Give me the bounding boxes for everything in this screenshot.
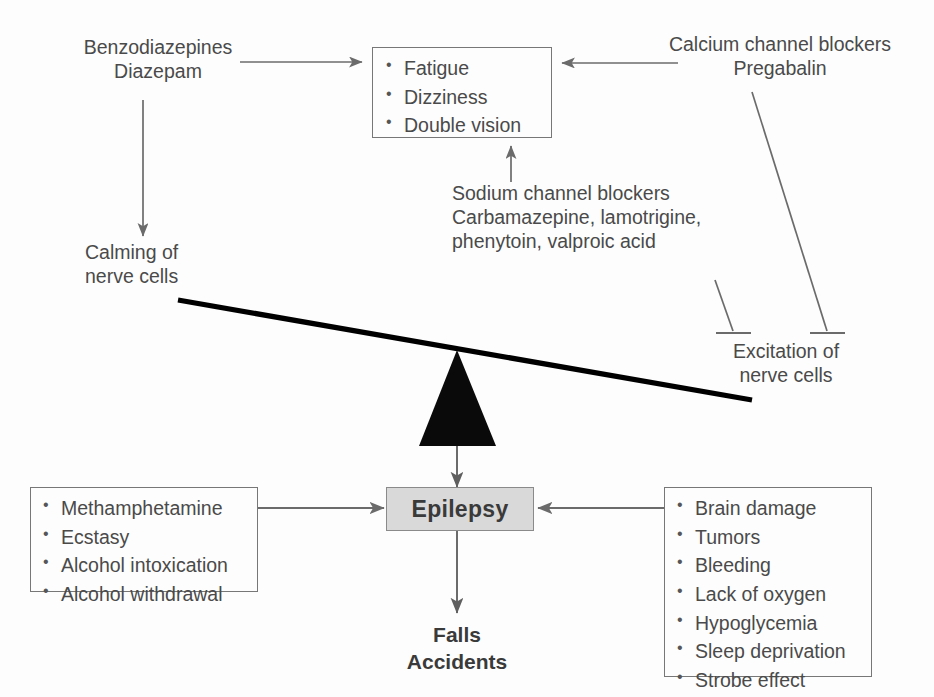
epilepsy-label: Epilepsy xyxy=(412,496,509,523)
list-item: Lack of oxygen xyxy=(675,580,846,609)
list-item: Alcohol intoxication xyxy=(41,551,228,580)
causes-right-list: Brain damage Tumors Bleeding Lack of oxy… xyxy=(675,494,846,695)
benzodiazepines-drug-label: Diazepam xyxy=(76,60,240,84)
calming-line-1: Calming of xyxy=(85,241,178,265)
balance-fulcrum-triangle xyxy=(419,350,496,446)
calcium-blockers-class-label: Calcium channel blockers xyxy=(644,33,916,57)
list-item: Double vision xyxy=(384,111,521,140)
node-benzodiazepines: Benzodiazepines Diazepam xyxy=(76,36,240,84)
excitation-line-2: nerve cells xyxy=(706,364,866,388)
sodium-blockers-class-label: Sodium channel blockers xyxy=(452,182,701,206)
diagram-canvas: Benzodiazepines Diazepam Calcium channel… xyxy=(0,0,934,697)
calcium-blockers-drug-label: Pregabalin xyxy=(644,57,916,81)
node-calming-of-nerve-cells: Calming of nerve cells xyxy=(85,241,178,289)
node-sodium-channel-blockers: Sodium channel blockers Carbamazepine, l… xyxy=(452,182,701,253)
balance-beam xyxy=(178,300,752,400)
list-item: Strobe effect xyxy=(675,666,846,695)
triggers-left-list: Methamphetamine Ecstasy Alcohol intoxica… xyxy=(41,494,228,609)
epilepsy-box: Epilepsy xyxy=(386,487,534,531)
side-effects-list: Fatigue Dizziness Double vision xyxy=(384,54,521,140)
excitation-line-1: Excitation of xyxy=(706,340,866,364)
list-item: Fatigue xyxy=(384,54,521,83)
node-excitation-of-nerve-cells: Excitation of nerve cells xyxy=(706,340,866,388)
list-item: Brain damage xyxy=(675,494,846,523)
calming-line-2: nerve cells xyxy=(85,265,178,289)
connector-sodium-blockers-inhibit-excitation xyxy=(715,280,751,333)
connector-pregabalin-inhibits-excitation xyxy=(752,92,845,333)
list-item: Bleeding xyxy=(675,551,846,580)
node-outcomes: Falls Accidents xyxy=(357,621,557,676)
list-item: Sleep deprivation xyxy=(675,637,846,666)
sodium-blockers-drug-line-1: Carbamazepine, lamotrigine, xyxy=(452,206,701,230)
list-item: Dizziness xyxy=(384,83,521,112)
list-item: Alcohol withdrawal xyxy=(41,580,228,609)
benzodiazepines-class-label: Benzodiazepines xyxy=(76,36,240,60)
list-item: Hypoglycemia xyxy=(675,609,846,638)
list-item: Ecstasy xyxy=(41,523,228,552)
outcome-line-1: Falls xyxy=(357,621,557,648)
list-item: Methamphetamine xyxy=(41,494,228,523)
node-calcium-channel-blockers: Calcium channel blockers Pregabalin xyxy=(644,33,916,81)
sodium-blockers-drug-line-2: phenytoin, valproic acid xyxy=(452,230,701,254)
list-item: Tumors xyxy=(675,523,846,552)
outcome-line-2: Accidents xyxy=(357,648,557,675)
